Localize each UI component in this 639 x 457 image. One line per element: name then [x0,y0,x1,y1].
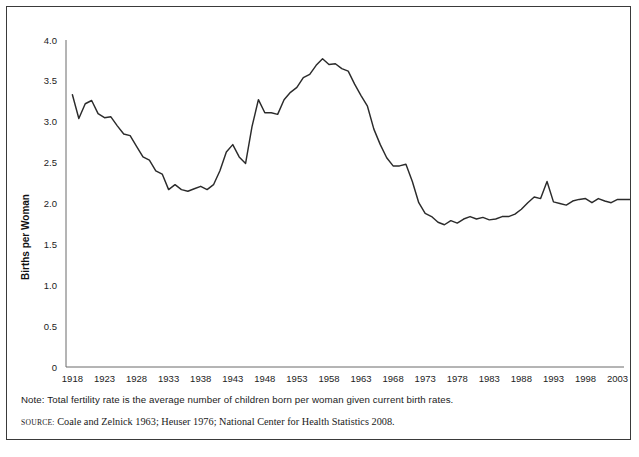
data-series-total-fertility-rate [72,59,630,225]
y-tick-label: 1.0 [44,280,57,291]
source-text: Coale and Zelnick 1963; Heuser 1976; Nat… [57,416,394,427]
x-tick-label: 1978 [447,373,468,384]
x-tick-label: 1983 [479,373,500,384]
y-tick-label: 4.0 [44,35,57,46]
x-tick-label: 1998 [575,373,596,384]
y-axis-title: Births per Woman [20,194,31,280]
footnotes-block: Note: Total fertility rate is the averag… [7,390,630,439]
x-tick-label: 1968 [383,373,404,384]
y-tick-label: 3.0 [44,116,57,127]
source-line: Source: Coale and Zelnick 1963; Heuser 1… [21,416,616,427]
x-tick-label: 1933 [158,373,179,384]
x-tick-label: 2003 [607,373,628,384]
x-axis-tick-labels: 1918192319281933193819431948195319581963… [62,373,628,384]
x-tick-label: 1958 [318,373,339,384]
x-tick-label: 1918 [62,373,83,384]
x-tick-label: 1993 [543,373,564,384]
y-axis-tick-labels: 00.51.01.52.02.53.03.54.0 [44,35,57,373]
note-text: Note: Total fertility rate is the averag… [21,394,616,405]
chart-region: 00.51.01.52.02.53.03.54.0 19181923192819… [7,7,630,390]
y-tick-label: 2.0 [44,198,57,209]
y-tick-label: 3.5 [44,75,57,86]
figure-frame: 00.51.01.52.02.53.03.54.0 19181923192819… [6,6,631,440]
x-tick-label: 1938 [190,373,211,384]
y-tick-label: 0 [52,362,57,373]
source-label: Source: [21,418,55,427]
x-tick-label: 1953 [286,373,307,384]
y-tick-label: 2.5 [44,157,57,168]
x-tick-label: 1973 [415,373,436,384]
x-tick-label: 1923 [94,373,115,384]
y-tick-label: 1.5 [44,239,57,250]
x-tick-label: 1963 [350,373,371,384]
x-tick-label: 1928 [126,373,147,384]
y-tick-label: 0.5 [44,321,57,332]
x-tick-label: 1948 [254,373,275,384]
x-tick-label: 1988 [511,373,532,384]
x-tick-label: 1943 [222,373,243,384]
fertility-rate-line-chart: 00.51.01.52.02.53.03.54.0 19181923192819… [7,7,630,390]
